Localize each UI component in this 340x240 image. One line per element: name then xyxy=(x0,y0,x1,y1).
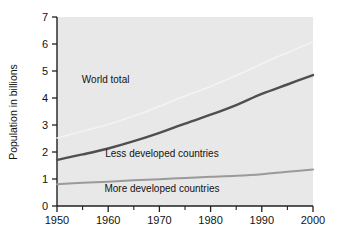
population-chart-figure: 01234567 195019601970198019902000 World … xyxy=(0,0,340,240)
x-tick-label: 1970 xyxy=(147,214,171,226)
x-tick-label: 1960 xyxy=(96,214,120,226)
y-tick-label: 6 xyxy=(42,38,48,50)
y-tick-label: 5 xyxy=(42,65,48,77)
series-label: World total xyxy=(82,74,130,85)
x-tick-label: 1990 xyxy=(250,214,274,226)
series-label: Less developed countries xyxy=(105,148,218,159)
x-tick-label: 1950 xyxy=(45,214,69,226)
y-tick-label: 2 xyxy=(42,146,48,158)
x-tick-label: 2000 xyxy=(301,214,325,226)
y-tick-label: 0 xyxy=(42,200,48,212)
y-tick-label: 4 xyxy=(42,92,48,104)
chart-canvas: 01234567 195019601970198019902000 World … xyxy=(0,0,340,240)
y-tick-label: 7 xyxy=(42,11,48,23)
y-axis-title: Population in billions xyxy=(7,64,19,160)
series-label: More developed countries xyxy=(104,183,219,194)
y-tick-label: 1 xyxy=(42,173,48,185)
x-tick-label: 1980 xyxy=(198,214,222,226)
y-tick-label: 3 xyxy=(42,119,48,131)
